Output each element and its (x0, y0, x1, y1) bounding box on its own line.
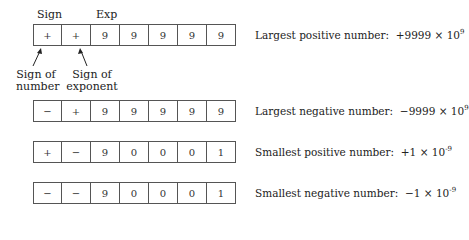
value-mantissa: −9999 × 10 (400, 105, 464, 117)
register-row-smallest-positive: + − 9 0 0 0 1 (33, 141, 236, 163)
sign-of-number-cell: + (33, 141, 62, 163)
value-exponent: -9 (445, 145, 452, 153)
description-label: Smallest positive number: (255, 146, 394, 158)
mantissa-digit-cell: 1 (207, 182, 236, 204)
sign-of-number-cell: − (33, 100, 62, 122)
sign-of-exponent-cell: + (62, 100, 91, 122)
description-largest-negative: Largest negative number: −9999 × 109 (255, 104, 469, 117)
value-mantissa: +1 × 10 (401, 146, 445, 158)
arrow-head-icon (37, 48, 42, 54)
arrow-head-icon (78, 48, 83, 54)
exponent-digit-cell: 9 (91, 141, 120, 163)
mantissa-digit-cell: 0 (149, 182, 178, 204)
mantissa-digit-cell: 0 (120, 182, 149, 204)
mantissa-digit-cell: 0 (178, 182, 207, 204)
value-exponent: 9 (460, 28, 464, 36)
register-row-largest-negative: − + 9 9 9 9 9 (33, 100, 236, 122)
sign-of-number-note: Sign of number (16, 69, 56, 93)
exponent-digit-cell: 9 (91, 182, 120, 204)
mantissa-digit-cell: 1 (207, 141, 236, 163)
mantissa-digit-cell: 0 (120, 141, 149, 163)
value-mantissa: −1 × 10 (405, 187, 449, 199)
mantissa-digit-cell: 9 (120, 100, 149, 122)
description-label: Largest negative number: (255, 105, 393, 117)
description-smallest-negative: Smallest negative number: −1 × 10-9 (255, 186, 456, 199)
mantissa-digit-cell: 0 (178, 141, 207, 163)
value-exponent: 9 (464, 104, 468, 112)
mantissa-digit-cell: 9 (178, 100, 207, 122)
sign-of-exponent-note: Sign of exponent (66, 69, 118, 93)
mantissa-digit-cell: 0 (149, 141, 178, 163)
value-exponent: -9 (449, 186, 456, 194)
mantissa-digit-cell: 9 (149, 100, 178, 122)
description-smallest-positive: Smallest positive number: +1 × 10-9 (255, 145, 452, 158)
sign-of-number-cell: − (33, 182, 62, 204)
description-label: Smallest negative number: (255, 187, 398, 199)
sign-of-exponent-cell: − (62, 141, 91, 163)
mantissa-digit-cell: 9 (207, 100, 236, 122)
sign-of-exponent-cell: − (62, 182, 91, 204)
exponent-digit-cell: 9 (91, 100, 120, 122)
register-row-smallest-negative: − − 9 0 0 0 1 (33, 182, 236, 204)
